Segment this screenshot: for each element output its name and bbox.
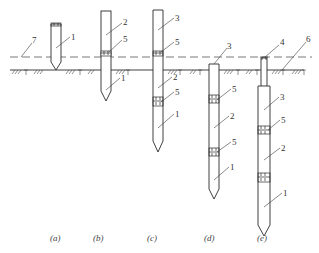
label-2: 2 <box>173 72 178 82</box>
stage-captions: (a) (b) (c) (d) (e) <box>50 233 267 243</box>
label-2: 2 <box>281 143 286 153</box>
label-5: 5 <box>175 37 180 47</box>
label-3: 3 <box>280 92 285 102</box>
caption-e: (e) <box>257 233 267 243</box>
caption-b: (b) <box>93 233 104 243</box>
stage-d-pile: 3 5 2 5 1 <box>209 41 237 199</box>
label-6: 6 <box>306 34 311 44</box>
label-7: 7 <box>32 35 37 45</box>
follower <box>261 58 267 87</box>
label-5: 5 <box>232 84 237 94</box>
label-3: 3 <box>175 13 180 23</box>
label-1: 1 <box>175 109 180 119</box>
caption-d: (d) <box>204 233 215 243</box>
label-5: 5 <box>123 34 128 44</box>
pile-driving-stages-diagram: 1 7 2 5 1 3 5 2 5 1 <box>0 0 319 253</box>
caption-a: (a) <box>50 233 61 243</box>
label-5: 5 <box>232 137 237 147</box>
stage-b-pile: 2 5 1 <box>101 11 128 101</box>
caption-c: (c) <box>147 233 157 243</box>
label-5: 5 <box>281 115 286 125</box>
label-2: 2 <box>230 111 235 121</box>
stage-a-pile: 1 7 <box>21 23 76 70</box>
label-4: 4 <box>280 37 285 47</box>
label-5: 5 <box>175 87 180 97</box>
label-1: 1 <box>71 32 76 42</box>
label-1: 1 <box>283 188 288 198</box>
label-2: 2 <box>123 17 128 27</box>
label-1: 1 <box>230 162 235 172</box>
label-1: 1 <box>121 73 126 83</box>
stage-e-pile: 4 6 3 5 2 1 <box>258 34 311 236</box>
stage-c-pile: 3 5 2 5 1 <box>153 10 180 152</box>
label-3: 3 <box>227 41 232 51</box>
